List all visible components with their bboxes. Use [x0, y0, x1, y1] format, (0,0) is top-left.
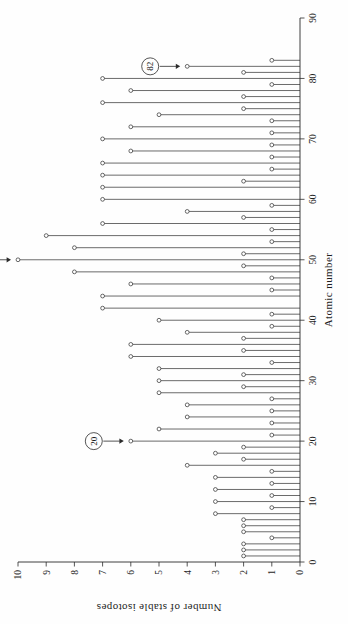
stem-marker [242, 252, 246, 256]
stem-item [129, 355, 300, 359]
stem-item [101, 161, 300, 165]
stem-marker [242, 457, 246, 461]
stem-marker [157, 367, 161, 371]
x-tick-label: 80 [308, 73, 318, 83]
x-tick-label: 40 [308, 315, 318, 325]
stem-item [101, 222, 300, 226]
stem-item [185, 64, 300, 68]
stem-marker [157, 379, 161, 383]
x-tick-label: 60 [308, 194, 318, 204]
stem-marker [242, 385, 246, 389]
stem-item [129, 282, 300, 286]
stem-marker [44, 234, 48, 238]
stem-item [157, 318, 300, 322]
stem-item [270, 433, 300, 437]
stem-item [270, 288, 300, 292]
stem-marker [185, 403, 189, 407]
stem-item [242, 71, 300, 75]
y-tick-label: 6 [126, 570, 136, 575]
stem-marker [242, 216, 246, 220]
stem-item [270, 506, 300, 510]
stem-marker [270, 228, 274, 232]
stem-marker [185, 64, 189, 68]
stem-item [157, 379, 300, 383]
stem-marker [214, 512, 218, 516]
y-tick-label: 8 [70, 570, 80, 575]
stem-marker [242, 95, 246, 99]
stem-item [185, 330, 300, 334]
stem-marker [270, 409, 274, 413]
stem-marker [242, 518, 246, 522]
y-tick-label: 5 [154, 570, 164, 575]
stem-item [73, 270, 301, 274]
stem-marker [242, 524, 246, 528]
stem-item [270, 83, 300, 87]
stem-marker [270, 203, 274, 207]
annotation-arrow-head [119, 439, 123, 444]
stem-item [270, 324, 300, 328]
stem-item [270, 119, 300, 123]
stem-marker [101, 77, 105, 81]
stem-marker [270, 58, 274, 62]
stem-marker [185, 330, 189, 334]
stem-item [242, 216, 300, 220]
stem-item [101, 294, 300, 298]
stem-item [214, 500, 301, 504]
stem-marker [270, 421, 274, 425]
stem-item [129, 89, 300, 93]
y-tick-label: 9 [42, 570, 52, 575]
y-tick-label: 7 [98, 570, 108, 575]
stem-item [270, 361, 300, 365]
stem-item [270, 240, 300, 244]
stem-marker [101, 173, 105, 177]
y-tick-label: 1 [267, 570, 277, 575]
stem-item [242, 336, 300, 340]
stem-marker [101, 294, 105, 298]
stem-item [242, 518, 300, 522]
stem-item [214, 475, 301, 479]
stem-item [242, 445, 300, 449]
stem-marker [242, 542, 246, 546]
stem-item [129, 439, 300, 443]
annotation-arrow-head [7, 257, 11, 262]
stem-marker [129, 343, 133, 347]
stem-item [270, 58, 300, 62]
stem-item [270, 482, 300, 486]
stem-item [214, 488, 301, 492]
stem-item [129, 149, 300, 153]
stem-marker [270, 494, 274, 498]
stem-item [270, 276, 300, 280]
stem-marker [214, 500, 218, 504]
stem-item [242, 457, 300, 461]
stem-item [270, 228, 300, 232]
stem-item [270, 312, 300, 316]
magic-number-annotation: 50 [0, 251, 11, 268]
stem-marker [73, 246, 77, 250]
magic-number-annotation: 20 [85, 433, 124, 450]
stem-marker [270, 83, 274, 87]
stem-item [242, 530, 300, 534]
stem-marker [157, 391, 161, 395]
stem-marker [270, 167, 274, 171]
stem-marker [242, 264, 246, 268]
x-axis-label: Atomic number [322, 253, 334, 328]
stem-item [270, 409, 300, 413]
stem-marker [129, 355, 133, 359]
annotation-label: 20 [89, 436, 99, 446]
stem-marker [270, 506, 274, 510]
x-tick-label: 30 [308, 376, 318, 386]
x-tick-label: 90 [308, 13, 318, 23]
stem-marker [157, 427, 161, 431]
stem-item [185, 210, 300, 214]
stem-marker [270, 155, 274, 159]
x-tick-label: 20 [308, 436, 318, 446]
y-tick-label: 4 [183, 570, 193, 575]
stem-item [214, 451, 301, 455]
tick-marks-group [18, 18, 305, 567]
stem-marker [270, 469, 274, 473]
stem-item [185, 415, 300, 419]
stem-marker [242, 179, 246, 183]
x-tick-label: 50 [308, 255, 318, 265]
stem-item [16, 258, 300, 262]
stem-marker [270, 433, 274, 437]
